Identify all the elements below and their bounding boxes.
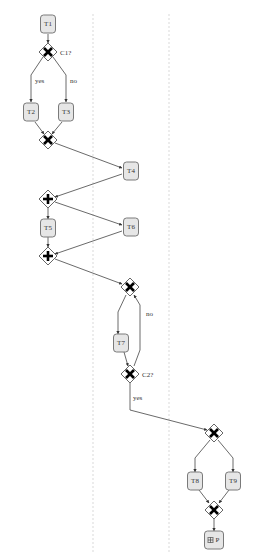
task-t7[interactable]: T7: [114, 334, 129, 352]
task-label: T4: [127, 167, 135, 175]
gateway-label: C2?: [142, 371, 153, 379]
sequence-flow[interactable]: [55, 202, 122, 225]
parallel-gateway[interactable]: [39, 190, 57, 208]
flow-label: no: [70, 77, 78, 85]
sequence-flow[interactable]: [219, 490, 229, 503]
task-t4[interactable]: T4: [124, 162, 139, 180]
task-t6[interactable]: T6: [124, 218, 139, 236]
task-label: T2: [27, 108, 35, 116]
sequence-flow[interactable]: [199, 490, 209, 503]
exclusive-gateway[interactable]: [205, 501, 223, 519]
exclusive-gateway[interactable]: C2?: [121, 365, 153, 383]
task-t5[interactable]: T5: [41, 219, 56, 237]
exclusive-gateway[interactable]: [121, 278, 139, 296]
flow-label: no: [146, 310, 154, 318]
sequence-flow[interactable]: [218, 440, 233, 472]
flow-label: yes: [133, 394, 143, 402]
sequence-flow[interactable]: [55, 143, 122, 168]
gateway-label: C1?: [60, 49, 71, 57]
flow-nodes: T1T2T3T4T5T6T7T8T9PC1?C2?: [24, 15, 241, 549]
task-label: T7: [117, 339, 125, 347]
sequence-flow[interactable]: [35, 122, 44, 134]
task-label: T6: [127, 223, 135, 231]
task-label: T9: [229, 477, 237, 485]
sequence-flow[interactable]: [134, 295, 140, 366]
flow-label: yes: [35, 77, 45, 85]
process-diagram: yesnonoyes T1T2T3T4T5T6T7T8T9PC1?C2?: [0, 0, 268, 558]
task-t1[interactable]: T1: [41, 15, 56, 33]
task-label: T3: [62, 108, 70, 116]
task-label: T5: [44, 224, 52, 232]
sequence-flow[interactable]: [53, 57, 66, 102]
exclusive-gateway[interactable]: C1?: [39, 43, 71, 61]
task-t3[interactable]: T3: [59, 103, 74, 121]
task-t8[interactable]: T8: [188, 472, 203, 490]
sequence-flow[interactable]: [124, 352, 128, 366]
parallel-gateway[interactable]: [39, 247, 57, 265]
task-p[interactable]: P: [205, 531, 224, 549]
sequence-flow[interactable]: [195, 440, 210, 472]
sequence-flow[interactable]: [52, 122, 62, 134]
task-t2[interactable]: T2: [24, 103, 39, 121]
task-t9[interactable]: T9: [226, 472, 241, 490]
subprocess-grid-icon: [208, 538, 213, 543]
sequence-flow[interactable]: [118, 295, 126, 334]
task-label: T1: [44, 20, 52, 28]
task-label: T8: [191, 477, 199, 485]
exclusive-gateway[interactable]: [205, 424, 223, 442]
exclusive-gateway[interactable]: [39, 131, 57, 149]
sequence-flow[interactable]: [55, 259, 122, 284]
sequence-flow[interactable]: [130, 383, 207, 430]
task-label: P: [216, 536, 220, 544]
sequence-flow[interactable]: [55, 174, 122, 197]
sequence-flow[interactable]: [55, 231, 122, 254]
